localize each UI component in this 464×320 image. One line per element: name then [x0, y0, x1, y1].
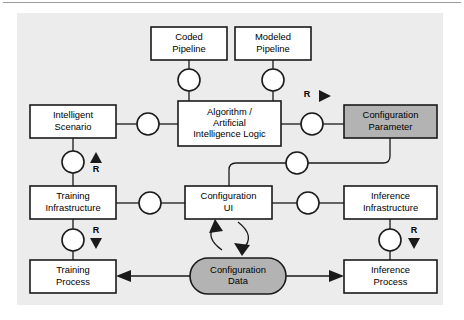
- port-circle-modeled-pipeline[interactable]: [262, 69, 284, 91]
- inference-infrastructure-box-label-line-2: Infrastructure: [363, 202, 418, 213]
- port-circle-scenario-training[interactable]: [62, 151, 84, 173]
- r-marker-training-infrastructure-label: R: [93, 225, 100, 235]
- coded-pipeline-box[interactable]: CodedPipeline: [151, 27, 227, 60]
- coded-pipeline-box-label-line-2: Pipeline: [172, 43, 205, 54]
- port-circle-training-ui[interactable]: [139, 192, 161, 214]
- port-circle-scenario-algorithm[interactable]: [137, 113, 159, 135]
- figure-root: CodedPipelineModeledPipelineAlgorithm /A…: [0, 0, 464, 320]
- inference-infrastructure-box-label-line-1: Inference: [371, 190, 410, 201]
- configuration-data-store[interactable]: ConfigurationData: [190, 258, 286, 294]
- modeled-pipeline-box[interactable]: ModeledPipeline: [235, 27, 311, 60]
- configuration-parameter-box-label-line-1: Configuration: [363, 109, 419, 120]
- r-marker-configuration-parameter-label: R: [304, 89, 311, 99]
- port-circle-training-process[interactable]: [62, 229, 84, 251]
- port-circle-coded-pipeline[interactable]: [178, 69, 200, 91]
- algorithm-ai-logic-box-label-line-2: Artificial: [213, 117, 246, 128]
- algorithm-ai-logic-box-label-line-1: Algorithm /: [207, 106, 252, 117]
- inference-process-box[interactable]: InferenceProcess: [344, 260, 437, 293]
- training-infrastructure-box-label-line-2: Infrastructure: [45, 202, 100, 213]
- configuration-ui-box[interactable]: ConfigurationUI: [185, 186, 272, 219]
- inference-infrastructure-box[interactable]: InferenceInfrastructure: [344, 186, 437, 219]
- port-circle-algorithm-parameter[interactable]: [301, 113, 323, 135]
- training-process-box[interactable]: TrainingProcess: [30, 260, 116, 293]
- block-diagram: CodedPipelineModeledPipelineAlgorithm /A…: [0, 0, 464, 320]
- port-circle-parameter-ui[interactable]: [286, 152, 308, 174]
- modeled-pipeline-box-label-line-1: Modeled: [255, 31, 291, 42]
- intelligent-scenario-box-label-line-2: Scenario: [54, 121, 91, 132]
- training-process-box-label-line-2: Process: [56, 276, 90, 287]
- intelligent-scenario-box-label-line-1: Intelligent: [53, 109, 94, 120]
- training-infrastructure-box[interactable]: TrainingInfrastructure: [30, 186, 116, 219]
- configuration-parameter-box[interactable]: ConfigurationParameter: [344, 105, 437, 138]
- modeled-pipeline-box-label-line-2: Pipeline: [256, 43, 289, 54]
- port-circle-ui-inference[interactable]: [297, 192, 319, 214]
- algorithm-ai-logic-box-label-line-3: Intelligence Logic: [193, 128, 266, 139]
- configuration-parameter-box-label-line-2: Parameter: [369, 121, 413, 132]
- coded-pipeline-box-label-line-1: Coded: [175, 31, 203, 42]
- port-circle-inference-process[interactable]: [379, 229, 401, 251]
- configuration-data-store-label-line-1: Configuration: [210, 264, 266, 275]
- inference-process-box-label-line-2: Process: [374, 276, 408, 287]
- r-marker-inference-infrastructure-label: R: [411, 225, 418, 235]
- configuration-data-store-label-line-2: Data: [228, 275, 249, 286]
- intelligent-scenario-box[interactable]: IntelligentScenario: [30, 105, 116, 138]
- training-infrastructure-box-label-line-1: Training: [56, 190, 90, 201]
- configuration-ui-box-label-line-1: Configuration: [201, 190, 257, 201]
- inference-process-box-label-line-1: Inference: [371, 264, 410, 275]
- r-marker-intelligent-scenario-label: R: [93, 164, 100, 174]
- configuration-ui-box-label-line-2: UI: [224, 202, 233, 213]
- training-process-box-label-line-1: Training: [56, 264, 90, 275]
- algorithm-ai-logic-box[interactable]: Algorithm /ArtificialIntelligence Logic: [178, 101, 281, 146]
